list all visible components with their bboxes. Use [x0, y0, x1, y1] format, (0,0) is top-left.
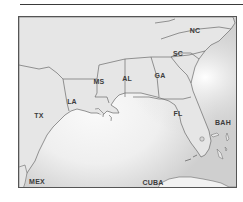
- label-ga: GA: [155, 72, 166, 79]
- label-tx: TX: [34, 112, 43, 119]
- map-graphic: [19, 17, 237, 188]
- top-horizontal-rule: [20, 4, 243, 5]
- label-bah: BAH: [215, 119, 231, 126]
- label-sc: SC: [173, 50, 183, 57]
- lake-okeechobee: [200, 137, 204, 141]
- label-fl: FL: [174, 110, 183, 117]
- map-frame: [18, 16, 237, 188]
- label-nc: NC: [190, 27, 201, 34]
- label-cuba: CUBA: [142, 179, 163, 186]
- label-ms: MS: [94, 78, 105, 85]
- label-al: AL: [122, 75, 132, 82]
- label-mex: MEX: [29, 178, 45, 185]
- label-la: LA: [67, 98, 77, 105]
